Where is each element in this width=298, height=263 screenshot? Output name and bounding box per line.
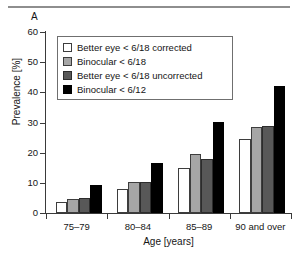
bar xyxy=(128,182,140,213)
top-divider xyxy=(8,6,290,8)
x-tick-mark xyxy=(46,214,47,219)
bar xyxy=(190,154,202,213)
y-tick-label: 50 xyxy=(16,57,38,67)
y-tick-mark xyxy=(40,123,45,124)
legend-label: Better eye < 6/18 corrected xyxy=(77,43,192,53)
bar xyxy=(67,199,79,213)
legend-item[interactable]: Binocular < 6/12 xyxy=(63,83,227,96)
bar xyxy=(251,127,263,213)
legend-swatch-icon xyxy=(63,85,72,94)
figure-panel-a: A Prevalence [%] 0102030405060 75–7980–8… xyxy=(0,0,298,263)
bar xyxy=(56,202,68,213)
y-tick-mark xyxy=(40,32,45,33)
y-tick-label-wrap: 0 xyxy=(12,208,38,218)
y-tick-mark xyxy=(40,183,45,184)
y-tick-label: 10 xyxy=(16,178,38,188)
x-tick-mark xyxy=(169,214,170,219)
legend-label: Better eye < 6/18 uncorrected xyxy=(77,71,202,81)
bar xyxy=(117,189,129,213)
bar xyxy=(140,182,152,213)
bar xyxy=(151,163,163,213)
y-tick-label-wrap: 10 xyxy=(12,178,38,188)
legend-label: Binocular < 6/18 xyxy=(77,57,146,67)
y-tick-label: 60 xyxy=(16,27,38,37)
bar xyxy=(90,185,102,213)
x-tick-mark xyxy=(107,214,108,219)
legend-item[interactable]: Binocular < 6/18 xyxy=(63,55,227,68)
x-tick-label: 85–89 xyxy=(169,221,230,232)
y-tick-label-wrap: 40 xyxy=(12,87,38,97)
y-tick-label: 20 xyxy=(16,148,38,158)
bar xyxy=(239,139,251,213)
bar xyxy=(274,86,286,213)
y-tick-label-wrap: 60 xyxy=(12,27,38,37)
bar xyxy=(213,122,225,213)
legend-swatch-icon xyxy=(63,71,72,80)
x-axis-label: Age [years] xyxy=(45,236,292,247)
y-tick-label: 0 xyxy=(16,208,38,218)
legend-label: Binocular < 6/12 xyxy=(77,85,146,95)
x-tick-mark xyxy=(291,214,292,219)
bar xyxy=(262,126,274,213)
legend-swatch-icon xyxy=(63,43,72,52)
legend-swatch-icon xyxy=(63,57,72,66)
y-tick-label: 30 xyxy=(16,118,38,128)
bar xyxy=(79,198,91,213)
x-tick-label: 80–84 xyxy=(107,221,168,232)
y-tick-label-wrap: 50 xyxy=(12,57,38,67)
y-tick-mark xyxy=(40,62,45,63)
y-tick-mark xyxy=(40,213,45,214)
x-tick-mark xyxy=(230,214,231,219)
bar xyxy=(178,168,190,213)
y-tick-label: 40 xyxy=(16,87,38,97)
bar xyxy=(201,159,213,213)
x-tick-label: 90 and over xyxy=(230,221,291,232)
y-tick-mark xyxy=(40,92,45,93)
y-tick-label-wrap: 30 xyxy=(12,118,38,128)
y-tick-mark xyxy=(40,153,45,154)
y-tick-label-wrap: 20 xyxy=(12,148,38,158)
panel-label: A xyxy=(31,11,38,22)
legend-item[interactable]: Better eye < 6/18 uncorrected xyxy=(63,69,227,82)
legend: Better eye < 6/18 corrected Binocular < … xyxy=(57,36,233,100)
legend-item[interactable]: Better eye < 6/18 corrected xyxy=(63,41,227,54)
x-tick-label: 75–79 xyxy=(46,221,107,232)
